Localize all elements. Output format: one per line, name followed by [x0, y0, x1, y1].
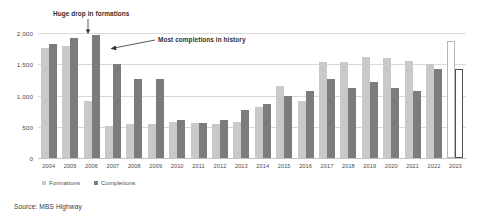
chart-figure: 05001,0001,5002,000 20042005200620072008…: [0, 0, 481, 221]
bar-completions-2011[interactable]: [199, 123, 207, 158]
bar-formations-2015[interactable]: [276, 86, 284, 159]
y-tick-label-2000: 2,000: [0, 30, 33, 37]
y-tick-label-500: 500: [0, 123, 33, 130]
y-tick-label-1000: 1,000: [0, 92, 33, 99]
bar-group-2008[interactable]: [124, 33, 145, 158]
bar-series-container: [38, 33, 466, 158]
x-tick-label-2019: 2019: [359, 163, 380, 169]
bar-group-2006[interactable]: [81, 33, 102, 158]
x-tick-label-2004: 2004: [38, 163, 59, 169]
bar-group-2017[interactable]: [316, 33, 337, 158]
bar-formations-2023[interactable]: [447, 41, 455, 159]
legend-label-completions: Completions: [101, 180, 135, 186]
bar-completions-2009[interactable]: [156, 79, 164, 158]
annotation-huge-drop-in-formations: Huge drop in formations: [53, 10, 130, 17]
x-tick-label-2016: 2016: [295, 163, 316, 169]
x-tick-label-2013: 2013: [231, 163, 252, 169]
annotation-most-completions-in-history: Most completions in history: [158, 36, 246, 43]
bar-group-2020[interactable]: [381, 33, 402, 158]
bar-group-2010[interactable]: [166, 33, 187, 158]
bar-group-2004[interactable]: [38, 33, 59, 158]
x-tick-label-2021: 2021: [402, 163, 423, 169]
legend-item-completions: Completions: [94, 180, 135, 186]
bar-formations-2018[interactable]: [340, 62, 348, 158]
x-axis-labels: 2004200520062007200820092010201120122013…: [38, 163, 466, 169]
x-tick-label-2006: 2006: [81, 163, 102, 169]
bar-completions-2004[interactable]: [49, 44, 57, 158]
bar-formations-2005[interactable]: [62, 46, 70, 159]
bar-group-2019[interactable]: [359, 33, 380, 158]
bar-group-2016[interactable]: [295, 33, 316, 158]
bar-formations-2012[interactable]: [212, 124, 220, 158]
bar-completions-2012[interactable]: [220, 120, 228, 158]
bar-group-2013[interactable]: [231, 33, 252, 158]
bar-completions-2021[interactable]: [413, 91, 421, 158]
bar-formations-2021[interactable]: [405, 61, 413, 159]
source-caption: Source: MBS Highway: [14, 203, 82, 210]
legend-swatch-formations-icon: [42, 181, 46, 185]
x-tick-label-2022: 2022: [423, 163, 444, 169]
bar-formations-2019[interactable]: [362, 57, 370, 158]
bar-completions-2020[interactable]: [391, 88, 399, 158]
bar-group-2023[interactable]: [445, 33, 466, 158]
bar-completions-2014[interactable]: [263, 104, 271, 158]
x-tick-label-2012: 2012: [209, 163, 230, 169]
bar-group-2022[interactable]: [423, 33, 444, 158]
bar-group-2014[interactable]: [252, 33, 273, 158]
bar-formations-2020[interactable]: [383, 58, 391, 158]
bar-completions-2007[interactable]: [113, 64, 121, 158]
bar-completions-2006[interactable]: [92, 35, 100, 158]
bar-group-2012[interactable]: [209, 33, 230, 158]
x-tick-label-2008: 2008: [124, 163, 145, 169]
legend-swatch-completions-icon: [94, 181, 98, 185]
bar-formations-2004[interactable]: [41, 48, 49, 158]
bar-completions-2015[interactable]: [284, 96, 292, 158]
bar-formations-2006[interactable]: [84, 101, 92, 159]
bar-completions-2005[interactable]: [70, 38, 78, 158]
bar-completions-2013[interactable]: [241, 110, 249, 158]
x-tick-label-2005: 2005: [59, 163, 80, 169]
bar-formations-2011[interactable]: [191, 123, 199, 158]
bar-completions-2016[interactable]: [306, 91, 314, 158]
bar-completions-2019[interactable]: [370, 82, 378, 158]
plot-area: [38, 33, 466, 158]
x-tick-label-2018: 2018: [338, 163, 359, 169]
x-tick-label-2010: 2010: [166, 163, 187, 169]
bar-completions-2022[interactable]: [434, 69, 442, 158]
x-tick-label-2009: 2009: [145, 163, 166, 169]
bar-completions-2023[interactable]: [455, 69, 463, 158]
bar-completions-2008[interactable]: [134, 79, 142, 158]
bar-completions-2010[interactable]: [177, 120, 185, 158]
bar-formations-2014[interactable]: [255, 107, 263, 158]
bar-group-2021[interactable]: [402, 33, 423, 158]
x-tick-label-2017: 2017: [316, 163, 337, 169]
bar-formations-2016[interactable]: [298, 101, 306, 159]
legend-label-formations: Formations: [49, 180, 80, 186]
x-tick-label-2023: 2023: [445, 163, 466, 169]
bar-formations-2022[interactable]: [426, 64, 434, 158]
bar-completions-2017[interactable]: [327, 79, 335, 158]
y-tick-label-1500: 1,500: [0, 61, 33, 68]
bar-formations-2007[interactable]: [105, 126, 113, 158]
legend-item-formations: Formations: [42, 180, 80, 186]
bar-formations-2009[interactable]: [148, 124, 156, 158]
bar-group-2018[interactable]: [338, 33, 359, 158]
bar-completions-2018[interactable]: [348, 88, 356, 158]
x-tick-label-2011: 2011: [188, 163, 209, 169]
bar-group-2015[interactable]: [273, 33, 294, 158]
bar-formations-2017[interactable]: [319, 62, 327, 158]
y-tick-label-0: 0: [0, 155, 33, 162]
gridline-0: [38, 158, 466, 159]
bar-group-2009[interactable]: [145, 33, 166, 158]
x-tick-label-2015: 2015: [273, 163, 294, 169]
bar-group-2011[interactable]: [188, 33, 209, 158]
bar-group-2007[interactable]: [102, 33, 123, 158]
bar-formations-2008[interactable]: [126, 124, 134, 158]
chart-legend: Formations Completions: [42, 180, 135, 186]
bar-formations-2010[interactable]: [169, 122, 177, 158]
x-tick-label-2014: 2014: [252, 163, 273, 169]
x-tick-label-2007: 2007: [102, 163, 123, 169]
bar-formations-2013[interactable]: [233, 122, 241, 158]
bar-group-2005[interactable]: [59, 33, 80, 158]
x-tick-label-2020: 2020: [381, 163, 402, 169]
